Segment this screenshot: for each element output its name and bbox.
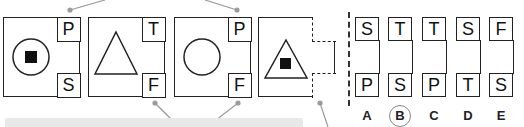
sequence-panel-1: P S — [3, 17, 80, 97]
top-letter: P — [57, 17, 81, 42]
option-spine — [446, 40, 447, 74]
top-letter: T — [142, 17, 166, 42]
sequence-panel-3: P F — [174, 17, 251, 97]
option-d[interactable]: S T — [456, 17, 481, 97]
option-spine — [480, 40, 481, 74]
option-bottom-letter: S — [388, 73, 412, 97]
option-b[interactable]: T S — [388, 17, 413, 97]
option-label-b-selected[interactable]: B — [388, 108, 412, 127]
top-letter: P — [228, 17, 252, 42]
option-top-letter: S — [355, 17, 379, 41]
section-divider — [348, 12, 350, 106]
option-spine — [513, 40, 514, 74]
triangle-icon — [92, 28, 140, 76]
option-e[interactable]: F S — [489, 17, 514, 97]
circle-icon — [181, 36, 223, 78]
option-label-d[interactable]: D — [456, 108, 480, 123]
option-label-e[interactable]: E — [489, 108, 513, 123]
bottom-letter: S — [57, 73, 81, 98]
option-top-letter: T — [388, 17, 412, 41]
option-bottom-letter: P — [355, 73, 379, 97]
option-bottom-letter: S — [489, 73, 513, 97]
option-a[interactable]: S P — [355, 17, 380, 97]
option-c[interactable]: T P — [422, 17, 447, 97]
hint-bar — [5, 118, 303, 127]
sequence-panel-4-missing — [258, 17, 335, 97]
option-label-c[interactable]: C — [422, 108, 446, 123]
option-bottom-letter: T — [456, 73, 480, 97]
option-bottom-letter: P — [422, 73, 446, 97]
option-label-a[interactable]: A — [355, 108, 379, 123]
option-top-letter: F — [489, 17, 513, 41]
selected-circle: B — [389, 105, 411, 127]
bottom-letter: F — [142, 73, 166, 98]
missing-top-letter — [312, 17, 336, 42]
missing-bottom-letter — [312, 73, 336, 98]
triangle-with-square-icon — [262, 32, 310, 80]
sequence-panel-2: T F — [88, 17, 165, 97]
option-top-letter: S — [456, 17, 480, 41]
option-top-letter: T — [422, 17, 446, 41]
circle-with-square-icon — [10, 36, 52, 78]
bottom-letter: F — [228, 73, 252, 98]
option-spine — [379, 40, 380, 74]
option-spine — [412, 40, 413, 74]
